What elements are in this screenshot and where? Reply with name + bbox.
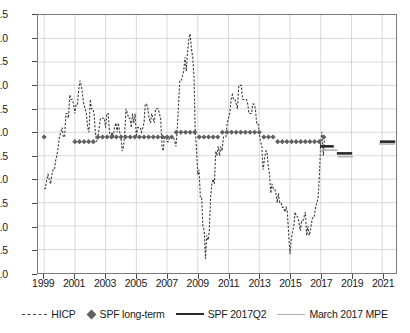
diamond-marker-icon [86,309,96,319]
x-tick-mark [259,274,260,279]
y-tick-label: 2.5 [0,103,8,115]
y-tick-label: 1.5 [0,150,8,162]
x-tick-mark [74,274,75,279]
x-tick-mark [198,274,199,279]
legend-item-label: SPF long-term [100,308,165,320]
y-tick-label: 3.0 [0,79,8,91]
solid-dark-line-icon [176,313,204,315]
legend-item-label: HICP [51,308,75,320]
y-tick-label: 3.5 [0,55,8,67]
y-tick-label: 4.0 [0,32,8,44]
y-tick-label: 0.5 [0,197,8,209]
y-tick-label: 4.5 [0,8,8,20]
legend-item-spf-2017q2[interactable]: SPF 2017Q2 [176,308,267,320]
series-hicp [44,34,324,259]
y-tick-label: -1.0 [0,268,8,280]
data-series-layer [38,15,396,273]
dashed-line-icon [22,314,47,315]
x-tick-mark [290,274,291,279]
inflation-chart: 4.54.03.53.02.52.01.51.00.50.0-0.5-1.0 1… [0,0,410,333]
legend-item-spf-long-term[interactable]: SPF long-term [87,308,165,320]
solid-light-line-icon [277,314,305,315]
y-tick-label: -0.5 [0,244,8,256]
y-tick-label: 0.0 [0,221,8,233]
x-tick-mark [229,274,230,279]
plot-area [37,14,397,274]
x-tick-mark [43,274,44,279]
x-tick-mark [167,274,168,279]
series-spf-long-term [42,130,327,145]
x-tick-mark [383,274,384,279]
y-tick-label: 2.0 [0,126,8,138]
x-tick-mark [352,274,353,279]
x-tick-mark [136,274,137,279]
legend-item-hicp[interactable]: HICP [22,308,75,320]
y-tick-mark [32,274,37,275]
legend-item-label: March 2017 MPE [309,308,387,320]
legend-item-label: SPF 2017Q2 [208,308,267,320]
chart-legend: HICPSPF long-termSPF 2017Q2March 2017 MP… [0,303,410,325]
legend-item-march-2017-mpe[interactable]: March 2017 MPE [277,308,387,320]
x-tick-mark [105,274,106,279]
y-tick-label: 1.0 [0,173,8,185]
x-tick-mark [321,274,322,279]
